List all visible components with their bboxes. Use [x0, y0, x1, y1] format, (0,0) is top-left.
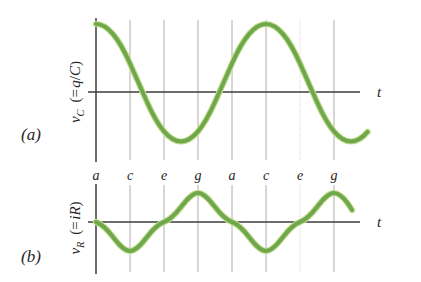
tick-label-1: c [127, 168, 134, 183]
panel-b-t-label: t [377, 214, 382, 230]
panel-b-y-axis-label: vR (=iR) [67, 201, 86, 254]
panel-b-label: (b) [21, 247, 41, 266]
panel-b-y-sub: R [75, 241, 86, 249]
panel-a-label: (a) [21, 125, 41, 144]
tick-label-4: a [229, 168, 236, 183]
panel-a-y-sub: C [75, 108, 86, 116]
tick-label-0: a [93, 168, 100, 183]
panel-a-y-paren-open: (= [67, 89, 84, 102]
svg-text:vR (=iR): vR (=iR) [67, 201, 86, 254]
panel-b-gridlines [130, 185, 334, 272]
panel-b-y-paren-open: (= [67, 221, 84, 234]
svg-text:vC (=q/C): vC (=q/C) [67, 61, 86, 123]
tick-label-row: a c e g a c e g [93, 168, 338, 183]
tick-label-3: g [195, 168, 202, 183]
panel-a-y-paren-close: ) [67, 61, 84, 66]
panel-a-gridlines [130, 20, 334, 160]
panel-a-y-axis-label: vC (=q/C) [67, 61, 86, 123]
panel-a-t-label: t [377, 84, 382, 100]
figure-container: (a) vC (=q/C) t a c e g a c e g [0, 0, 421, 282]
panel-a: (a) vC (=q/C) t [21, 18, 382, 162]
tick-label-7: g [331, 168, 338, 183]
panel-b-y-den: R [67, 206, 83, 216]
panel-b-y-paren-close: ) [67, 201, 84, 206]
tick-label-6: e [297, 168, 303, 183]
panel-b: (b) vR (=iR) t [21, 184, 382, 274]
rc-waveform-figure: (a) vC (=q/C) t a c e g a c e g [0, 0, 421, 282]
tick-label-5: c [263, 168, 270, 183]
tick-label-2: e [161, 168, 167, 183]
